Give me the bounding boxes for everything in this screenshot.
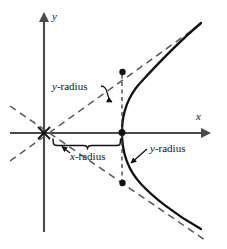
x-radius-label: x-radius — [69, 150, 105, 162]
y-axis-label: y — [51, 10, 57, 22]
svg-text:y-radius: y-radius — [149, 142, 185, 154]
vertex-dot-marker — [119, 129, 126, 136]
upper-asymptote-dot-marker — [119, 69, 125, 75]
axes-group — [10, 14, 209, 232]
y-radius-lower-label-text: -radius — [155, 142, 186, 154]
asymptote-positive-slope — [10, 21, 205, 161]
y-radius-upper-label-text: -radius — [57, 80, 88, 92]
hyperbola-diagram: y x y-radius x-radius y-radius — [0, 0, 227, 249]
x-radius-label-text: -radius — [75, 150, 106, 162]
svg-text:y-radius: y-radius — [51, 80, 87, 92]
y-radius-lower-label: y-radius — [149, 142, 185, 154]
lower-asymptote-dot-marker — [119, 180, 125, 186]
y-radius-lower-leader-arrow — [131, 149, 147, 163]
svg-text:x-radius: x-radius — [69, 150, 105, 162]
x-axis-label: x — [195, 110, 201, 122]
hyperbola-upper-branch — [122, 23, 201, 132]
asymptotes-group — [10, 21, 205, 240]
asymptote-negative-slope — [10, 106, 205, 240]
hyperbola-curve-group — [122, 23, 201, 229]
hyperbola-figure: y x y-radius x-radius y-radius — [0, 0, 227, 249]
y-radius-upper-label: y-radius — [51, 80, 87, 92]
x-radius-leader-arrow — [62, 147, 70, 154]
